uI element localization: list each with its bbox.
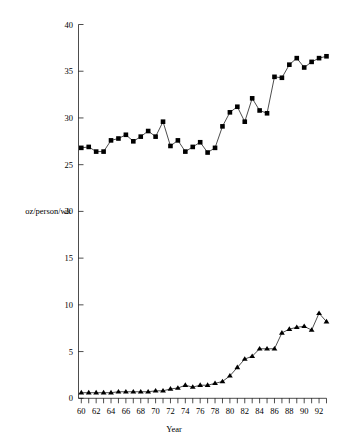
x-axis-tick-label: 64 (107, 406, 116, 416)
data-point-square (101, 149, 106, 154)
data-point-triangle (197, 382, 203, 387)
x-axis-tick-label: 60 (77, 406, 86, 416)
x-axis-tick-label: 70 (151, 406, 160, 416)
data-point-triangle (123, 389, 129, 394)
data-point-triangle (93, 390, 99, 395)
data-point-square (205, 150, 210, 155)
x-axis-tick-label: 90 (300, 406, 309, 416)
x-axis-tick-label: 66 (122, 406, 131, 416)
x-axis-tick-label: 68 (136, 406, 145, 416)
data-point-square (116, 136, 121, 141)
y-axis-tick-label: 0 (69, 393, 73, 403)
line-chart: 0510152025303540 60626466687072747678808… (0, 0, 348, 445)
x-axis-tick-label: 76 (196, 406, 205, 416)
y-axis-title: oz/person/wk (25, 206, 72, 216)
data-point-square (146, 129, 151, 134)
data-point-square (235, 104, 240, 109)
x-axis-tick-label: 92 (315, 406, 324, 416)
data-series-group (78, 54, 329, 394)
data-point-square (124, 132, 129, 137)
y-axis-tick-label: 5 (69, 347, 73, 357)
data-point-square (213, 146, 218, 151)
data-point-square (272, 75, 277, 80)
data-point-triangle (101, 390, 107, 395)
x-axis-tick-label: 88 (285, 406, 294, 416)
data-point-square (220, 124, 225, 129)
x-axis-tick-label: 86 (270, 406, 279, 416)
data-point-square (94, 149, 99, 154)
data-point-square (302, 65, 307, 70)
data-point-square (228, 110, 233, 115)
data-point-square (198, 140, 203, 145)
data-point-triangle (272, 346, 278, 351)
data-point-square (317, 56, 322, 61)
data-point-square (183, 149, 188, 154)
x-axis-title: Year (166, 424, 182, 434)
series-line (81, 313, 326, 392)
data-point-square (138, 134, 143, 139)
data-point-triangle (182, 382, 188, 387)
data-point-square (109, 138, 114, 143)
data-point-triangle (130, 389, 136, 394)
x-axis-tick-label: 62 (92, 406, 101, 416)
data-point-square (242, 119, 247, 124)
data-point-square (176, 138, 181, 143)
data-point-square (86, 145, 91, 150)
data-point-square (257, 108, 262, 113)
data-point-triangle (138, 389, 144, 394)
data-point-triangle (316, 310, 322, 315)
x-axis-tick-label: 84 (255, 406, 264, 416)
data-point-square (324, 54, 329, 59)
data-point-triangle (78, 390, 84, 395)
data-point-triangle (301, 323, 307, 328)
y-axis-tick-label: 30 (65, 113, 74, 123)
data-point-square (153, 134, 158, 139)
data-point-square (294, 56, 299, 61)
x-axis: 6062646668707274767880828486889092 (77, 398, 326, 416)
x-axis-tick-label: 72 (166, 406, 175, 416)
y-axis-tick-label: 35 (65, 66, 74, 76)
data-point-triangle (86, 390, 92, 395)
data-point-square (168, 144, 173, 149)
data-point-square (190, 145, 195, 150)
y-axis-tick-label: 15 (65, 253, 74, 263)
data-point-square (309, 60, 314, 65)
y-axis-tick-label: 10 (65, 300, 74, 310)
x-axis-tick-label: 74 (181, 406, 190, 416)
series-lower-series (78, 310, 329, 394)
y-axis-tick-label: 40 (65, 20, 74, 30)
data-point-square (250, 96, 255, 101)
x-axis-tick-label: 82 (241, 406, 250, 416)
x-axis-tick-label: 80 (226, 406, 235, 416)
x-axis-tick-label: 78 (211, 406, 220, 416)
data-point-square (280, 75, 285, 80)
data-point-triangle (153, 388, 159, 393)
data-point-square (161, 119, 166, 124)
data-point-triangle (309, 327, 315, 332)
data-point-triangle (220, 379, 226, 384)
data-point-square (265, 111, 270, 116)
data-point-triangle (279, 330, 285, 335)
data-point-square (131, 139, 136, 144)
data-point-triangle (257, 346, 263, 351)
y-axis-tick-label: 25 (65, 160, 74, 170)
data-point-triangle (116, 389, 122, 394)
data-point-square (287, 62, 292, 67)
chart-container: 0510152025303540 60626466687072747678808… (0, 0, 348, 445)
data-point-square (79, 146, 84, 151)
data-point-triangle (264, 346, 270, 351)
series-upper-series (79, 54, 329, 155)
